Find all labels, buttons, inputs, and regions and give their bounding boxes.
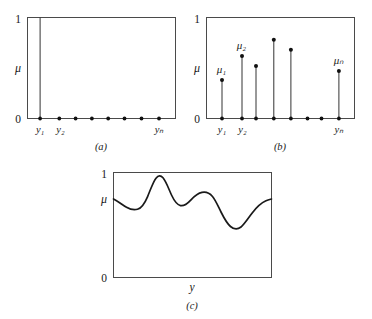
panel-c: 1 0 μ y (c): [100, 168, 272, 313]
panel-a-dot: [157, 117, 161, 121]
panel-a-dot: [140, 117, 144, 121]
panel-c-xaxis-label: y: [188, 281, 195, 294]
panel-b-dot: [337, 117, 341, 121]
panel-a-ytick-top: 1: [15, 13, 21, 25]
panel-b-ytick-top: 1: [194, 13, 200, 25]
panel-c-ytick-bottom: 0: [101, 272, 107, 284]
panel-b-dot: [220, 117, 224, 121]
panel-b-dot: [254, 117, 258, 121]
panel-b-xtick-y2: y₂: [237, 124, 247, 135]
panel-a-dot: [38, 117, 42, 121]
panel-a-dot: [106, 117, 110, 121]
panel-a-caption: (a): [95, 141, 108, 153]
panel-b-value-dot: [220, 78, 224, 82]
panel-a-ytick-bottom: 0: [15, 113, 21, 125]
panel-c-plot-frame: [114, 173, 272, 278]
panel-b-plot-frame: [207, 18, 355, 119]
panel-c-ytick-top: 1: [101, 168, 107, 180]
panel-a: 1 0 μ y₁ y₂ yₙ (a): [14, 13, 176, 154]
panel-b-xtick-yn: yₙ: [334, 124, 345, 135]
panel-a-plot-frame: [28, 18, 176, 119]
panel-b-point-label-mu1: μ₁: [216, 63, 227, 75]
panel-b-xtick-y1: y₁: [217, 124, 226, 135]
panel-b-value-dot: [337, 69, 341, 73]
panel-b-value-dot: [289, 48, 293, 52]
panel-a-yaxis-label: μ: [14, 61, 21, 75]
panel-b-value-dot: [272, 38, 276, 42]
panel-b-dot: [272, 117, 276, 121]
panel-b-ytick-bottom: 0: [194, 113, 200, 125]
panel-b-dot: [320, 117, 324, 121]
panel-c-yaxis-label: μ: [100, 192, 107, 206]
panel-b-dot: [289, 117, 293, 121]
panel-a-xtick-y1: y₁: [35, 124, 44, 135]
panel-b-point-label-mu2: μ₂: [236, 39, 247, 51]
panel-a-xtick-yn: yₙ: [154, 124, 165, 135]
panel-a-dot: [74, 117, 78, 121]
panel-a-dot: [123, 117, 127, 121]
panel-b-value-dot: [254, 64, 258, 68]
panel-b-yaxis-label: μ: [193, 61, 200, 75]
panel-a-xtick-y2: y₂: [55, 124, 65, 135]
panel-b-dot: [306, 117, 310, 121]
panel-a-dot: [90, 117, 94, 121]
panel-c-caption: (c): [186, 300, 198, 312]
panel-b-caption: (b): [274, 141, 287, 153]
panel-a-dot: [57, 117, 61, 121]
figure-membership-functions: 1 0 μ y₁ y₂ yₙ (a): [0, 0, 372, 319]
panel-b-dot: [240, 117, 244, 121]
panel-b: 1 0 μ μ₁ μ₂ μₙ y₁ y₂ yₙ (b): [193, 13, 355, 154]
panel-b-value-dot: [240, 54, 244, 58]
panel-b-point-label-mun: μₙ: [333, 54, 345, 66]
